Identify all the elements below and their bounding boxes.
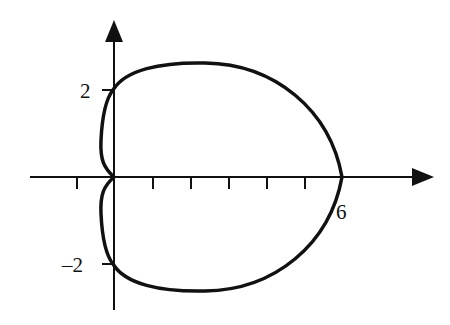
x-axis-arrow-icon [412, 168, 434, 186]
x-label-6: 6 [336, 200, 347, 224]
y-axis-arrow-icon [105, 20, 123, 42]
polar-curve-plot: 2 –2 6 [0, 0, 450, 325]
y-label-neg2: –2 [61, 253, 83, 277]
y-label-2: 2 [80, 79, 91, 103]
